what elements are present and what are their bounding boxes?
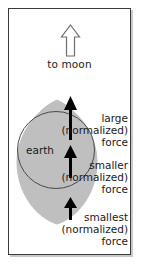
- smallest-force-line1: smallest: [61, 211, 128, 223]
- smaller-force-line1: smaller: [61, 159, 128, 171]
- tidal-force-figure: to moon earth large (normalized) force s…: [0, 0, 141, 271]
- smaller-force-line2: (normalized): [61, 171, 128, 183]
- large-force-caption: large (normalized) force: [61, 112, 128, 149]
- large-force-line2: (normalized): [61, 124, 128, 136]
- smallest-force-line3: force: [61, 235, 128, 247]
- smallest-force-caption: smallest (normalized) force: [61, 211, 128, 248]
- smallest-force-line2: (normalized): [61, 223, 128, 235]
- smaller-force-line3: force: [61, 183, 128, 195]
- to-moon-label: to moon: [8, 58, 131, 70]
- smaller-force-caption: smaller (normalized) force: [61, 159, 128, 196]
- large-force-line3: force: [61, 136, 128, 148]
- to-moon-arrow-icon: [60, 24, 81, 57]
- large-force-line1: large: [61, 112, 128, 124]
- earth-label: earth: [26, 144, 54, 156]
